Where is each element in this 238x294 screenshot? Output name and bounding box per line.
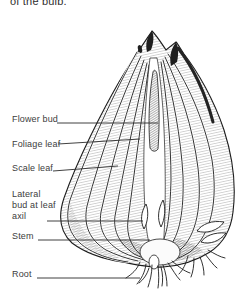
label-lateral-bud: Lateral bud at leaf axil (12, 189, 58, 222)
diagram-page: of the bulb. (0, 0, 238, 294)
label-stem: Stem (12, 231, 34, 242)
label-root: Root (12, 269, 32, 280)
stem-tip-drawing (149, 255, 159, 269)
label-scale-leaf: Scale leaf (12, 163, 53, 174)
label-flower-bud: Flower bud (12, 114, 58, 125)
label-foliage-leaf: Foliage leaf (12, 139, 60, 150)
stem-base-drawing (140, 239, 180, 265)
